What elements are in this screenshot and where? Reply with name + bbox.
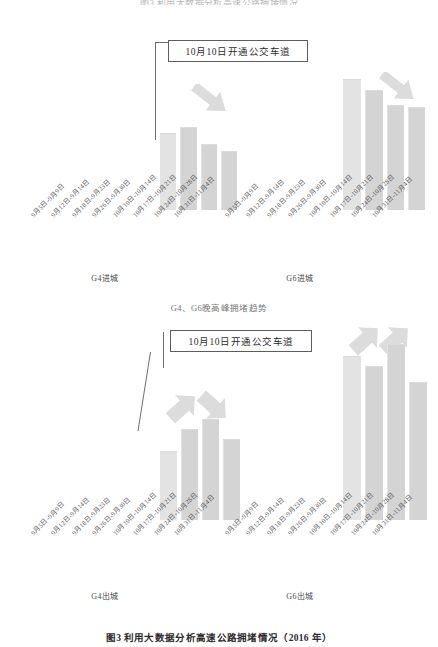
chart-panel-g6-out	[215, 345, 405, 520]
callout-leader-top-horizontal	[155, 42, 168, 43]
panel-title-g4-out: G4出城	[70, 590, 140, 601]
callout-leader-bottom-vertical	[163, 332, 164, 368]
figure-caption: 图3 利用大数据分析高速公路拥堵情况（2016 年）	[0, 630, 438, 644]
panel-title-g4-in: G4进城	[70, 272, 140, 283]
panel-title-g6-out: G6出城	[265, 590, 335, 601]
page-running-header: 图3 利用大数据分析高速公路拥堵情况	[0, 0, 438, 5]
section-title-evening-peak: G4、G6晚高峰拥堵趋势	[0, 301, 438, 313]
bar-g6-in-8	[408, 107, 425, 210]
callout-top-g4: 10月10日开通公交车道	[168, 40, 308, 62]
figure-page: 图3 利用大数据分析高速公路拥堵情况 10月10日开通公交车道 9月5日-9月9…	[0, 0, 438, 647]
bar-group-g6-out	[215, 345, 405, 520]
panel-title-g6-in: G6进城	[265, 272, 335, 283]
